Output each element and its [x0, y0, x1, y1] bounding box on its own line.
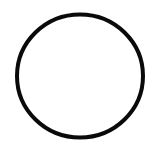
circle-outline-icon [17, 15, 143, 138]
drawing-canvas [0, 0, 156, 147]
circle-drawing [0, 0, 156, 147]
